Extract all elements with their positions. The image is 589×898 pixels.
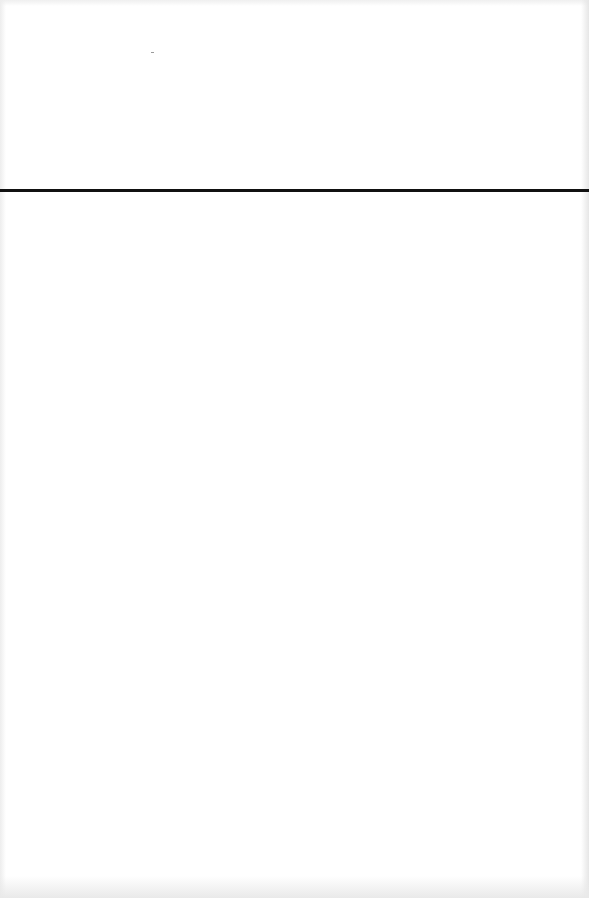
horizontal-rule [0,189,589,192]
document-page [0,0,589,898]
scan-speck [151,52,154,53]
scan-edge-right [581,0,589,898]
scan-edge-bottom [0,876,589,898]
scan-edge-top [0,0,589,6]
scan-edge-left [0,0,6,898]
